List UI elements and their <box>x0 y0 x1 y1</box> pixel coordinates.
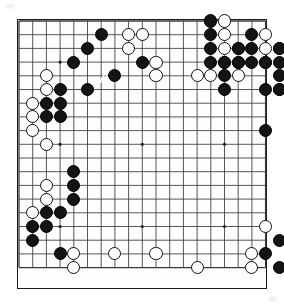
white-stone[interactable] <box>245 261 258 274</box>
go-diagram-page <box>0 0 284 308</box>
black-stone[interactable] <box>218 69 231 82</box>
white-stone[interactable] <box>26 206 39 219</box>
black-stone[interactable] <box>259 83 272 96</box>
black-stone[interactable] <box>204 28 217 41</box>
black-stone[interactable] <box>273 69 284 82</box>
white-stone[interactable] <box>67 261 80 274</box>
black-stone[interactable] <box>204 14 217 27</box>
black-stone[interactable] <box>245 56 258 69</box>
white-stone[interactable] <box>40 83 53 96</box>
black-stone[interactable] <box>26 234 39 247</box>
black-stone[interactable] <box>81 42 94 55</box>
black-stone[interactable] <box>95 28 108 41</box>
white-stone[interactable] <box>218 28 231 41</box>
white-stone[interactable] <box>191 69 204 82</box>
go-board[interactable] <box>17 19 267 289</box>
white-stone[interactable] <box>218 42 231 55</box>
black-stone[interactable] <box>40 206 53 219</box>
white-stone[interactable] <box>67 247 80 260</box>
black-stone[interactable] <box>232 42 245 55</box>
white-stone[interactable] <box>26 97 39 110</box>
black-stone[interactable] <box>273 42 284 55</box>
white-stone[interactable] <box>259 42 272 55</box>
white-stone[interactable] <box>149 247 162 260</box>
black-stone[interactable] <box>26 220 39 233</box>
black-stone[interactable] <box>136 56 149 69</box>
white-stone[interactable] <box>40 69 53 82</box>
black-stone[interactable] <box>54 247 67 260</box>
white-stone[interactable] <box>40 193 53 206</box>
black-stone[interactable] <box>67 193 80 206</box>
black-stone[interactable] <box>40 110 53 123</box>
white-stone[interactable] <box>108 247 121 260</box>
white-stone[interactable] <box>149 69 162 82</box>
white-stone[interactable] <box>122 42 135 55</box>
white-stone[interactable] <box>232 69 245 82</box>
black-stone[interactable] <box>40 220 53 233</box>
white-stone[interactable] <box>149 56 162 69</box>
black-stone[interactable] <box>204 56 217 69</box>
black-stone[interactable] <box>81 83 94 96</box>
scan-artifact-bottom-right <box>268 296 278 302</box>
black-stone[interactable] <box>259 124 272 137</box>
white-stone[interactable] <box>191 261 204 274</box>
black-stone[interactable] <box>259 247 272 260</box>
white-stone[interactable] <box>26 110 39 123</box>
white-stone[interactable] <box>245 247 258 260</box>
scan-artifact-top-left <box>6 4 15 9</box>
white-stone[interactable] <box>40 179 53 192</box>
black-stone[interactable] <box>54 110 67 123</box>
white-stone[interactable] <box>40 138 53 151</box>
black-stone[interactable] <box>273 56 284 69</box>
black-stone[interactable] <box>204 42 217 55</box>
black-stone[interactable] <box>40 97 53 110</box>
stones-layer[interactable] <box>17 19 267 289</box>
white-stone[interactable] <box>259 220 272 233</box>
black-stone[interactable] <box>245 28 258 41</box>
black-stone[interactable] <box>232 56 245 69</box>
black-stone[interactable] <box>273 261 284 274</box>
black-stone[interactable] <box>259 56 272 69</box>
black-stone[interactable] <box>54 83 67 96</box>
black-stone[interactable] <box>218 83 231 96</box>
white-stone[interactable] <box>136 28 149 41</box>
black-stone[interactable] <box>67 165 80 178</box>
black-stone[interactable] <box>273 234 284 247</box>
white-stone[interactable] <box>26 124 39 137</box>
black-stone[interactable] <box>54 206 67 219</box>
black-stone[interactable] <box>245 42 258 55</box>
white-stone[interactable] <box>204 69 217 82</box>
white-stone[interactable] <box>122 28 135 41</box>
black-stone[interactable] <box>54 97 67 110</box>
white-stone[interactable] <box>259 28 272 41</box>
black-stone[interactable] <box>67 179 80 192</box>
white-stone[interactable] <box>218 14 231 27</box>
black-stone[interactable] <box>108 69 121 82</box>
black-stone[interactable] <box>67 56 80 69</box>
black-stone[interactable] <box>273 83 284 96</box>
black-stone[interactable] <box>218 56 231 69</box>
